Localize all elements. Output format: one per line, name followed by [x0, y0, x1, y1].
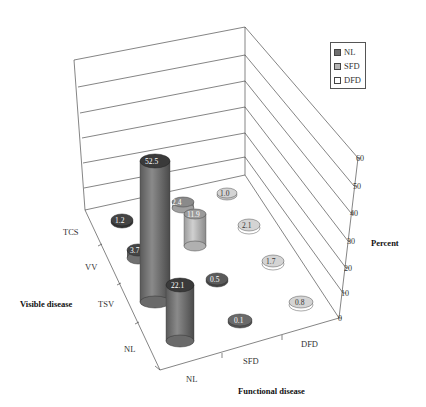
svg-text:30: 30 — [347, 237, 355, 246]
svg-text:SFD: SFD — [243, 356, 259, 366]
svg-text:1.2: 1.2 — [115, 216, 125, 225]
svg-text:1.0: 1.0 — [220, 189, 230, 198]
svg-text:0: 0 — [338, 314, 342, 323]
bar-nl-nl: 22.1 — [166, 278, 194, 347]
bar-sfd-tsv: 0.5 — [206, 273, 228, 287]
svg-text:60: 60 — [356, 154, 364, 163]
svg-text:52.5: 52.5 — [145, 157, 158, 166]
z-axis-tick-labels: 60 50 40 30 20 10 0 — [338, 154, 364, 323]
legend-swatch-nl — [334, 49, 341, 56]
svg-text:3.7: 3.7 — [130, 246, 140, 255]
functional-axis-title: Functional disease — [238, 386, 305, 396]
bar-nl-tcs: 1.2 — [111, 214, 133, 228]
legend-swatch-dfd — [334, 77, 341, 84]
bar-dfd-nl: 0.8 — [289, 296, 313, 311]
bar-sfd-nl: 0.1 — [228, 314, 252, 328]
legend-item-dfd: DFD — [334, 73, 362, 87]
svg-text:2.4: 2.4 — [172, 198, 182, 207]
bar-dfd-vv: 2.1 — [238, 219, 260, 234]
functional-axis-labels: NL SFD DFD — [186, 339, 318, 384]
bar-nl-tsv: 52.5 — [140, 154, 170, 308]
svg-text:22.1: 22.1 — [171, 281, 184, 290]
svg-text:1.7: 1.7 — [266, 257, 276, 266]
legend-item-sfd: SFD — [334, 59, 362, 73]
legend: NL SFD DFD — [330, 42, 366, 89]
svg-text:2.1: 2.1 — [242, 221, 252, 230]
svg-text:50: 50 — [353, 182, 361, 191]
svg-text:VV: VV — [85, 262, 98, 272]
bar-dfd-tsv: 1.7 — [262, 255, 284, 270]
functional-axis-ticks — [222, 335, 282, 358]
bar-sfd-vv: 11.9 — [184, 209, 206, 251]
svg-text:0.1: 0.1 — [234, 316, 244, 325]
legend-item-nl: NL — [334, 45, 362, 59]
svg-text:0.5: 0.5 — [210, 275, 220, 284]
svg-text:40: 40 — [350, 209, 358, 218]
bar-dfd-tcs: 1.0 — [217, 188, 237, 200]
legend-label-sfd: SFD — [344, 61, 360, 71]
svg-text:NL: NL — [186, 374, 197, 384]
svg-text:TCS: TCS — [63, 227, 79, 237]
svg-text:DFD: DFD — [301, 339, 318, 349]
svg-text:NL: NL — [124, 344, 135, 354]
svg-text:11.9: 11.9 — [187, 210, 200, 219]
svg-text:20: 20 — [344, 264, 352, 273]
visible-axis-title: Visible disease — [20, 299, 73, 309]
legend-label-dfd: DFD — [344, 75, 361, 85]
svg-text:TSV: TSV — [98, 299, 115, 309]
z-axis-title: Percent — [371, 238, 399, 248]
legend-label-nl: NL — [344, 47, 355, 57]
legend-swatch-sfd — [334, 63, 341, 70]
svg-text:0.8: 0.8 — [295, 298, 305, 307]
svg-text:10: 10 — [341, 289, 349, 298]
visible-axis-labels: TCS VV TSV NL — [63, 227, 135, 354]
